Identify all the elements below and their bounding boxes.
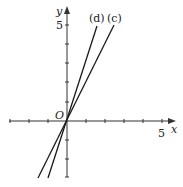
y-tick-5-label: 5 xyxy=(56,19,63,32)
label-c: (c) xyxy=(107,12,122,25)
graph-figure: (d) (c) O y x 5 5 xyxy=(0,0,183,187)
label-d: (d) xyxy=(89,12,105,25)
y-axis-arrow-icon xyxy=(64,6,70,14)
line-c xyxy=(38,25,114,178)
x-tick-5-label: 5 xyxy=(158,127,165,140)
line-d xyxy=(48,26,97,178)
y-axis-label: y xyxy=(55,5,63,18)
x-axis xyxy=(9,119,172,123)
x-axis-label: x xyxy=(171,123,178,136)
origin-label: O xyxy=(55,109,64,122)
y-axis xyxy=(65,10,69,177)
